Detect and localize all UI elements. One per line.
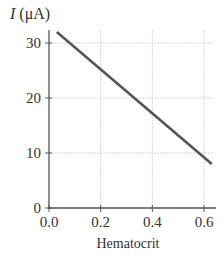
y-tick-label: 10 [26, 145, 41, 161]
tick-labels: 01020300.00.20.40.6 [26, 35, 214, 230]
x-tick-label: 0.2 [91, 214, 110, 230]
x-tick-label: 0.0 [40, 214, 59, 230]
x-tick-label: 0.4 [143, 214, 162, 230]
grid-lines [49, 30, 214, 208]
y-tick-label: 20 [26, 90, 41, 106]
chart: 01020300.00.20.40.6 I(μA) Hematocrit [0, 0, 220, 265]
y-tick-label: 30 [26, 35, 41, 51]
axes [45, 30, 216, 212]
y-axis-title: I(μA) [9, 5, 50, 23]
x-axis-title: Hematocrit [97, 236, 160, 251]
x-tick-label: 0.6 [195, 214, 214, 230]
